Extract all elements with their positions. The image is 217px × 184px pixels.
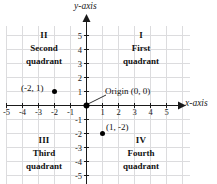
y-axis-title: y-axis: [74, 1, 97, 11]
y-tick-label: 1: [68, 88, 82, 97]
origin-leader-line: [88, 95, 106, 104]
plotted-point-dot: [100, 131, 105, 136]
x-tick-label: -4: [16, 108, 30, 117]
x-tick-label: 4: [144, 108, 158, 117]
y-axis-arrowhead: [83, 14, 91, 22]
quadrant-label-first: I First quadrant: [108, 29, 174, 67]
plotted-point-label: (1, -2): [106, 123, 129, 132]
plotted-point-label: (-2, 1): [21, 84, 44, 93]
quadrant-roman: IV: [108, 134, 174, 147]
x-axis-title: x-axis: [185, 98, 208, 108]
quadrant-roman: III: [11, 134, 77, 147]
quadrant-name: Fourth: [108, 147, 174, 160]
quadrant-roman: II: [11, 29, 77, 42]
quadrant-name: First: [108, 42, 174, 55]
y-tick-label: 2: [68, 74, 82, 83]
origin-label: Origin (0, 0): [105, 87, 150, 96]
quadrant-word: quadrant: [108, 160, 174, 173]
quadrant-word: quadrant: [108, 55, 174, 68]
quadrant-word: quadrant: [11, 160, 77, 173]
origin-dot: [84, 103, 90, 109]
x-tick-label: -5: [0, 108, 14, 117]
quadrant-roman: I: [108, 29, 174, 42]
x-tick-label: 2: [112, 108, 126, 117]
quadrant-word: quadrant: [11, 55, 77, 68]
x-tick-label: 5: [160, 108, 174, 117]
quadrant-name: Third: [11, 147, 77, 160]
x-tick-label: -3: [32, 108, 46, 117]
quadrant-label-third: III Third quadrant: [11, 134, 77, 172]
quadrant-label-fourth: IV Fourth quadrant: [108, 134, 174, 172]
coordinate-plane-figure: y-axis x-axis -5 -4 -3 -2 -1 1 2 3 4 5 5…: [0, 0, 217, 184]
plotted-point-dot: [52, 89, 57, 94]
x-tick-label: 3: [128, 108, 142, 117]
x-tick-label: 1: [96, 108, 110, 117]
quadrant-name: Second: [11, 42, 77, 55]
quadrant-label-second: II Second quadrant: [11, 29, 77, 67]
x-tick-label: -2: [48, 108, 62, 117]
y-tick-label: -1: [68, 116, 82, 125]
y-tick-label: -5: [68, 172, 82, 181]
